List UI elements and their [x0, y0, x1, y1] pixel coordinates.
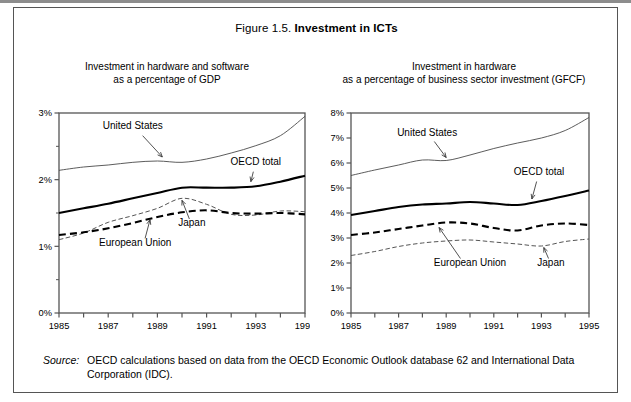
right-caption-line-2: as a percentage of business sector inves…: [314, 73, 614, 86]
source-label: Source:: [43, 353, 79, 367]
y-tick-label-left: 0%: [39, 308, 52, 318]
left-panel-caption: Investment in hardware and software as a…: [42, 60, 292, 86]
series-line-oecd-total: [59, 176, 305, 213]
annotation-japan: Japan: [537, 257, 564, 268]
annotation-leader-united-states: [434, 142, 446, 158]
annotation-european-union: European Union: [99, 237, 171, 248]
annotation-oecd-total: OECD total: [231, 156, 282, 167]
x-tick-label-right: 1995: [579, 321, 600, 331]
annotation-united-states: United States: [103, 120, 163, 131]
y-tick-label-left: 3%: [39, 108, 52, 118]
x-tick-label-left: 1995: [295, 321, 310, 331]
y-tick-label-left: 1%: [39, 242, 52, 252]
annotation-oecd-total: OECD total: [514, 166, 565, 177]
left-caption-line-2: as a percentage of GDP: [42, 73, 292, 86]
y-tick-label-right: 2%: [331, 258, 344, 268]
x-tick-label-left: 1985: [49, 321, 70, 331]
x-tick-label-right: 1989: [436, 321, 457, 331]
source-text: OECD calculations based on data from the…: [43, 353, 603, 381]
figure-number: Figure 1.5.: [235, 22, 291, 34]
left-chart-svg: 0%1%2%3%198519871989199119931995United S…: [22, 96, 310, 331]
x-tick-label-left: 1987: [98, 321, 119, 331]
figure-container: Figure 1.5. Investment in ICTs Investmen…: [13, 7, 618, 393]
annotation-japan: Japan: [178, 217, 205, 228]
y-tick-label-left: 2%: [39, 175, 52, 185]
annotation-leader-united-states: [143, 136, 163, 157]
annotation-leader-japan: [182, 200, 189, 219]
annotation-united-states: United States: [397, 127, 457, 138]
right-caption-line-1: Investment in hardware: [314, 60, 614, 73]
x-tick-label-left: 1993: [245, 321, 266, 331]
right-panel-caption: Investment in hardware as a percentage o…: [314, 60, 614, 86]
series-line-japan: [351, 239, 589, 256]
right-chart-panel: 0%1%2%3%4%5%6%7%8%1985198719891991199319…: [314, 96, 614, 331]
series-line-european-union: [351, 222, 589, 235]
annotation-leader-european-union: [439, 228, 460, 259]
x-tick-label-right: 1993: [531, 321, 552, 331]
page-top-rule: [0, 0, 631, 3]
y-tick-label-right: 0%: [331, 308, 344, 318]
source-note: Source: OECD calculations based on data …: [43, 353, 603, 381]
x-tick-label-right: 1991: [483, 321, 504, 331]
figure-title-text: Investment in ICTs: [295, 22, 398, 34]
y-tick-label-right: 7%: [331, 133, 344, 143]
series-line-oecd-total: [351, 191, 589, 216]
annotation-european-union: European Union: [434, 257, 506, 268]
y-tick-label-right: 3%: [331, 233, 344, 243]
x-tick-label-right: 1985: [341, 321, 362, 331]
figure-title: Figure 1.5. Investment in ICTs: [14, 22, 619, 34]
y-tick-label-right: 4%: [331, 208, 344, 218]
left-chart-panel: 0%1%2%3%198519871989199119931995United S…: [22, 96, 310, 331]
x-tick-label-right: 1987: [388, 321, 409, 331]
y-tick-label-right: 8%: [331, 108, 344, 118]
x-tick-label-left: 1991: [196, 321, 217, 331]
x-tick-label-left: 1989: [147, 321, 168, 331]
plot-frame-right: [351, 113, 589, 313]
y-tick-label-right: 5%: [331, 183, 344, 193]
y-tick-label-right: 6%: [331, 158, 344, 168]
left-caption-line-1: Investment in hardware and software: [42, 60, 292, 73]
right-chart-svg: 0%1%2%3%4%5%6%7%8%1985198719891991199319…: [314, 96, 614, 331]
y-tick-label-right: 1%: [331, 283, 344, 293]
